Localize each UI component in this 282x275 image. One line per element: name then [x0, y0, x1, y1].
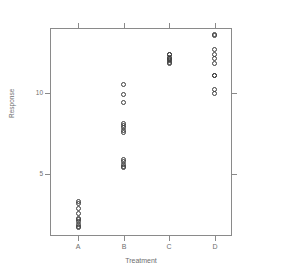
data-point	[121, 130, 126, 135]
data-point	[212, 61, 217, 66]
x-axis-tick-top	[78, 23, 79, 28]
x-axis-tick-label: A	[68, 243, 88, 251]
x-axis-tick-top	[215, 23, 216, 28]
x-axis-tick	[124, 236, 125, 241]
y-axis-tick	[45, 93, 50, 94]
x-axis-tick-label: D	[205, 243, 225, 251]
x-axis-tick	[169, 236, 170, 241]
x-axis-tick-top	[169, 23, 170, 28]
x-axis-tick	[78, 236, 79, 241]
y-axis-tick-label: 5	[29, 170, 43, 177]
data-point	[212, 73, 217, 78]
data-point	[121, 100, 126, 105]
chart-canvas: 510ABCD Treatment Response	[0, 0, 282, 275]
y-axis-tick-label: 10	[29, 89, 43, 96]
data-point	[76, 225, 81, 230]
x-axis-tick-top	[124, 23, 125, 28]
y-axis-tick	[45, 174, 50, 175]
x-axis-tick-label: B	[114, 243, 134, 251]
data-point	[121, 82, 126, 87]
data-point	[121, 165, 126, 170]
y-axis-title: Response	[8, 89, 15, 118]
x-axis-tick	[215, 236, 216, 241]
data-point	[167, 61, 172, 66]
y-axis-tick-right	[232, 174, 237, 175]
x-axis-tick-label: C	[159, 243, 179, 251]
data-point	[212, 33, 217, 38]
data-point	[212, 91, 217, 96]
y-axis-tick-right	[232, 93, 237, 94]
x-axis-title: Treatment	[0, 257, 282, 264]
data-point	[121, 92, 126, 97]
